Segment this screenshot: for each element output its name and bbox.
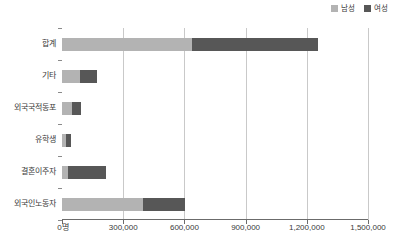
bar-row[interactable]: 기타 [62,70,368,83]
legend-label-female: 여성 [374,5,388,13]
bar-segment-male[interactable] [62,70,80,83]
plot-area: 합계기타외국국적동포유학생결혼이주자외국인노동자 [62,28,368,220]
x-axis-label-5: 1,500,000 [350,224,386,232]
category-label-0: 합계 [42,40,56,48]
gridline-900000 [246,28,247,220]
bar-segment-female[interactable] [72,102,81,115]
bar-segment-male[interactable] [62,198,143,211]
bar-segment-female[interactable] [66,134,71,147]
bar-row[interactable]: 유학생 [62,134,368,147]
bar-row[interactable]: 외국국적동포 [62,102,368,115]
bar-segment-female[interactable] [68,166,106,179]
category-tick-2 [58,92,62,93]
category-label-2: 외국국적동포 [14,104,56,112]
bar-row[interactable]: 외국인노동자 [62,198,368,211]
stacked-bar-chart: 남성 여성 합계기타외국국적동포유학생결혼이주자외국인노동자 0명300,000… [0,0,396,247]
category-tick-4 [58,156,62,157]
bar-segment-female[interactable] [192,38,318,51]
category-label-5: 외국인노동자 [14,200,56,208]
category-tick-end [58,220,62,221]
category-tick-0 [58,28,62,29]
legend-swatch-female [364,5,371,12]
x-axis-line [62,219,368,220]
x-axis-label-4: 1,200,000 [289,224,325,232]
bar-row[interactable]: 결혼이주자 [62,166,368,179]
category-label-3: 유학생 [35,136,56,144]
legend-label-male: 남성 [341,5,355,13]
bar-row[interactable]: 합계 [62,38,368,51]
gridline-1500000 [368,28,369,220]
bar-segment-male[interactable] [62,102,72,115]
x-axis-label-1: 300,000 [109,224,138,232]
gridline-300000 [123,28,124,220]
category-tick-1 [58,60,62,61]
gridline-600000 [184,28,185,220]
category-label-4: 결혼이주자 [21,168,56,176]
bar-segment-male[interactable] [62,38,192,51]
legend-swatch-male [331,5,338,12]
x-axis-label-0: 0명 [57,224,68,232]
x-axis-label-3: 900,000 [231,224,260,232]
chart-legend: 남성 여성 [331,5,388,13]
category-label-1: 기타 [42,72,56,80]
gridline-1200000 [307,28,308,220]
legend-item-male[interactable]: 남성 [331,5,355,13]
x-axis-label-2: 600,000 [170,224,199,232]
bar-segment-female[interactable] [143,198,185,211]
category-tick-3 [58,124,62,125]
category-tick-5 [58,188,62,189]
legend-item-female[interactable]: 여성 [364,5,388,13]
bar-segment-female[interactable] [80,70,97,83]
